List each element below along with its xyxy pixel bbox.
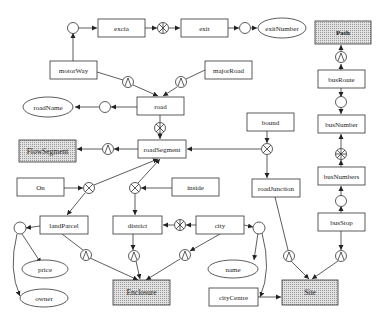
label-name: name [225,266,240,274]
label-enclosure: Enclosure [127,288,158,297]
star-circle-icon [155,123,166,134]
label-city: city [215,222,226,230]
schema-diagram: excia exit exitNumber Path motorWay majo… [0,0,383,322]
label-flowsegment: FlowSegment [27,147,70,156]
label-majorroad: majorRoad [213,67,245,75]
label-roadjunction: roadJunction [258,185,295,193]
star-circle-icon [158,23,169,34]
circle-connector-icon [253,222,265,234]
label-on: On [36,184,45,192]
label-road: road [154,103,167,111]
cross-circle-icon [84,183,95,194]
label-exitnumber: exitNumber [265,25,299,33]
label-busstop: busStop [330,219,353,227]
circle-connector-icon [336,196,347,207]
star-circle-icon [175,220,186,231]
star-circle-icon [336,149,347,160]
label-bound: bound [262,119,280,127]
label-roadname: roadName [33,104,62,112]
label-busroute: busRoute [328,76,354,84]
cross-circle-icon [130,183,141,194]
label-motorway: motorWay [59,67,89,75]
lambda-circle-icon [180,250,191,261]
label-inside: inside [187,184,204,192]
circle-connector-icon [100,102,111,113]
label-roadsegment: roadSegment [144,146,181,154]
lambda-circle-icon [284,251,295,262]
lambda-circle-icon [103,144,114,155]
label-busnumbers: busNumbers [324,173,360,181]
circle-connector-icon [14,222,26,234]
label-district: district [128,222,147,230]
cross-circle-icon [262,144,273,155]
label-exit: exit [199,25,210,33]
label-landparcel: landParcel [49,222,79,230]
lambda-circle-icon [129,251,140,262]
label-excia: excia [114,25,130,33]
lambda-circle-icon [336,251,347,262]
circle-connector-icon [240,23,251,34]
label-site: Site [304,288,316,297]
label-price: price [38,266,52,274]
lambda-circle-icon [336,52,347,63]
label-busnumber: busNumber [325,121,358,129]
lambda-circle-icon [123,77,134,88]
lambda-circle-icon [81,250,92,261]
circle-connector-icon [336,97,347,108]
circle-connector-icon [68,23,79,34]
label-owner: owner [35,295,53,303]
label-path: Path [336,29,350,37]
lambda-circle-icon [176,77,187,88]
label-citycentre: cityCentre [219,294,248,302]
